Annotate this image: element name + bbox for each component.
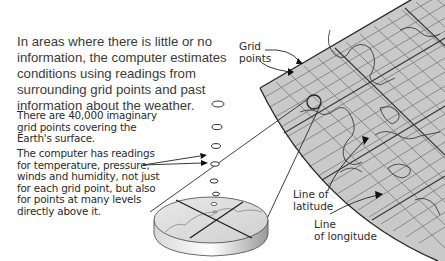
grid-points-label: Grid points [239, 40, 271, 64]
longitude-label: Line of longitude [314, 218, 377, 242]
latitude-label-line1: Line of [293, 188, 333, 200]
grid-cell-disk [154, 197, 268, 256]
readings-note: The computer has readings for temperatur… [17, 148, 167, 217]
atmosphere-levels [210, 101, 224, 196]
grid-points-label-line2: points [239, 52, 271, 64]
longitude-label-line1: Line [314, 218, 377, 230]
latitude-label-line2: latitude [293, 200, 333, 212]
grid-points-label-line1: Grid [239, 40, 271, 52]
latitude-label: Line of latitude [293, 188, 333, 212]
longitude-label-line2: of longitude [314, 230, 377, 242]
intro-text: In areas where there is little or no inf… [17, 34, 232, 114]
grid-points-note: There are 40,000 imaginary grid points c… [17, 110, 167, 145]
